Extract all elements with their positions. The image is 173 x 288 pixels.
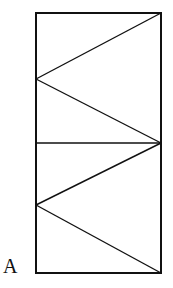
lower-triangle-bottom-edge bbox=[36, 205, 161, 273]
figure: A bbox=[0, 0, 173, 288]
lower-triangle-top-edge bbox=[36, 143, 161, 205]
upper-triangle-top-edge bbox=[36, 13, 161, 79]
upper-triangle-bottom-edge bbox=[36, 79, 161, 143]
vertex-label-a: A bbox=[3, 255, 18, 277]
